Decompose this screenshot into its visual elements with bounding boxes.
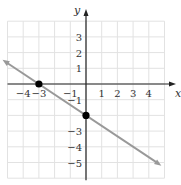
x-axis-arrow-icon <box>169 82 176 87</box>
y-tick-label: 2 <box>76 48 82 59</box>
y-tick-label: 3 <box>76 32 82 43</box>
x-tick-label: 3 <box>130 88 136 99</box>
x-tick-label: 2 <box>114 88 120 99</box>
y-tick-label: 1 <box>76 63 82 74</box>
x-tick-label: 1 <box>99 88 105 99</box>
point-x-intercept <box>35 80 42 87</box>
y-tick-label: −5 <box>67 158 82 169</box>
point-y-intercept <box>82 112 89 119</box>
y-tick-label: −4 <box>67 142 82 153</box>
x-tick-label: −4 <box>16 88 31 99</box>
y-axis-arrow-icon <box>84 9 89 16</box>
y-axis-label: y <box>73 4 81 17</box>
x-tick-label: −3 <box>32 88 47 99</box>
y-tick-label: −3 <box>67 126 82 137</box>
coordinate-plane-chart: xy−4−3−11234321−1−3−4−5 <box>0 0 181 185</box>
x-axis-label: x <box>175 87 181 100</box>
x-tick-label: 4 <box>146 88 152 99</box>
y-tick-label: −1 <box>67 95 82 106</box>
